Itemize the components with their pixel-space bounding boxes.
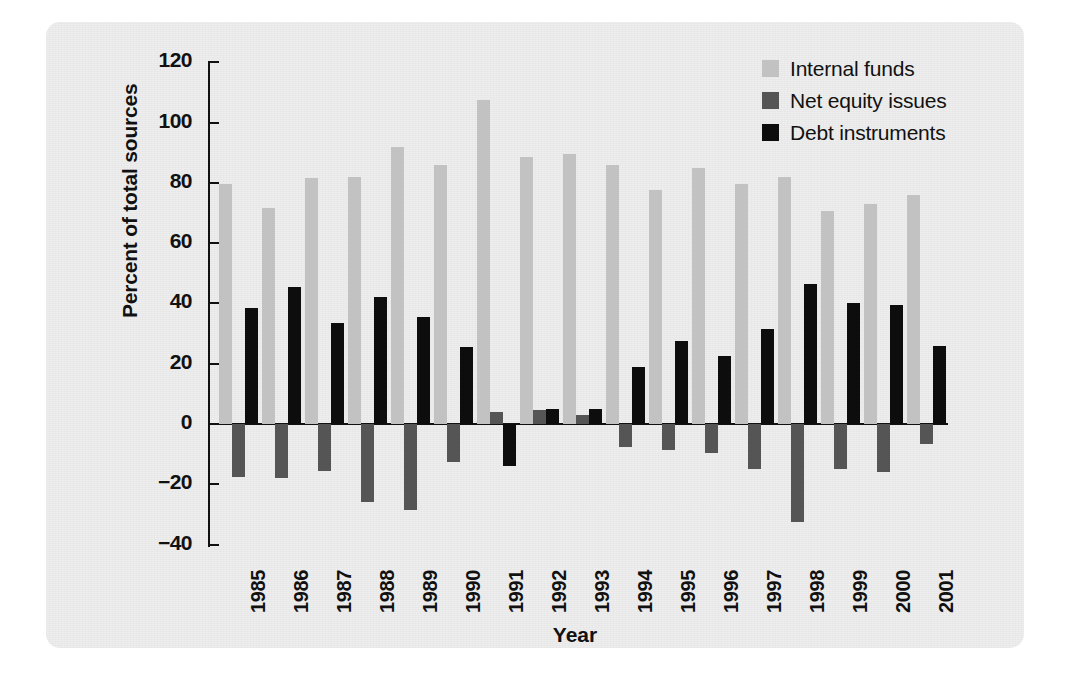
bar-debt-instruments-1995 [675, 341, 688, 424]
bar-debt-instruments-1999 [847, 303, 860, 424]
y-axis-tick [208, 242, 219, 244]
x-axis-tick-label: 1988 [376, 570, 399, 613]
bar-debt-instruments-1994 [632, 367, 645, 424]
legend-item-label: Internal funds [790, 57, 914, 81]
bar-internal-funds-1993 [563, 154, 576, 424]
x-axis-tick-label: 1995 [677, 570, 700, 613]
bar-internal-funds-1994 [606, 165, 619, 424]
bar-internal-funds-1999 [821, 211, 834, 424]
y-axis-tick [208, 182, 219, 184]
y-axis-tick [208, 122, 219, 124]
x-axis-tick-label: 1991 [505, 570, 528, 613]
y-axis-tick-label: 60 [118, 229, 192, 253]
bar-internal-funds-2000 [864, 204, 877, 424]
bar-debt-instruments-1993 [589, 409, 602, 424]
bar-debt-instruments-1989 [417, 317, 430, 424]
bar-debt-instruments-1992 [546, 409, 559, 424]
legend-item: Net equity issues [762, 88, 947, 113]
y-axis-tick-label: 40 [118, 289, 192, 313]
x-axis-tick-label: 1996 [720, 570, 743, 613]
y-axis-tick [208, 61, 219, 63]
bar-net-equity-issues-1994 [619, 424, 632, 447]
bar-debt-instruments-2000 [890, 305, 903, 424]
bar-internal-funds-1986 [262, 208, 275, 424]
chart-figure: Percent of total sources 120100806040200… [0, 0, 1070, 680]
bar-debt-instruments-1997 [761, 329, 774, 424]
x-axis-tick-label: 2001 [935, 570, 958, 613]
legend-item: Debt instruments [762, 120, 947, 145]
bar-debt-instruments-1990 [460, 347, 473, 424]
bar-internal-funds-1995 [649, 190, 662, 424]
x-axis-tick-label: 1992 [548, 570, 571, 613]
bar-internal-funds-1996 [692, 168, 705, 424]
x-axis-tick-label: 2000 [892, 570, 915, 613]
y-axis-tick-label: −40 [118, 531, 192, 555]
bar-net-equity-issues-1990 [447, 424, 460, 462]
bar-net-equity-issues-1991 [490, 412, 503, 424]
y-axis-tick-label: 80 [118, 169, 192, 193]
y-axis-tick [208, 423, 219, 425]
bar-net-equity-issues-1985 [232, 424, 245, 477]
legend-item: Internal funds [762, 56, 947, 81]
bar-net-equity-issues-1998 [791, 424, 804, 522]
bar-net-equity-issues-1988 [361, 424, 374, 502]
x-axis-tick-label: 1993 [591, 570, 614, 613]
bar-debt-instruments-1991 [503, 424, 516, 466]
y-axis-tick-label: 120 [118, 48, 192, 72]
bar-internal-funds-1992 [520, 157, 533, 424]
bar-debt-instruments-1986 [288, 287, 301, 424]
x-axis-title: Year [0, 623, 1070, 647]
bar-debt-instruments-1987 [331, 323, 344, 424]
bar-net-equity-issues-2001 [920, 424, 933, 444]
y-axis-tick-label: 0 [118, 410, 192, 434]
x-axis-tick-label: 1997 [763, 570, 786, 613]
bar-internal-funds-1998 [778, 177, 791, 424]
x-axis-title-text: Year [553, 623, 597, 646]
y-axis-tick [208, 483, 219, 485]
x-axis-tick-label: 1994 [634, 570, 657, 613]
legend-item-label: Debt instruments [790, 121, 946, 145]
legend-swatch-icon [762, 60, 779, 77]
bar-internal-funds-1989 [391, 147, 404, 424]
x-axis-tick-label: 1989 [419, 570, 442, 613]
x-axis-tick-label: 1999 [849, 570, 872, 613]
bar-debt-instruments-1998 [804, 284, 817, 424]
bar-internal-funds-1997 [735, 184, 748, 424]
x-axis-tick-label: 1987 [333, 570, 356, 613]
bar-net-equity-issues-1989 [404, 424, 417, 510]
bar-net-equity-issues-1995 [662, 424, 675, 450]
legend-swatch-icon [762, 92, 779, 109]
bar-net-equity-issues-1999 [834, 424, 847, 469]
legend-swatch-icon [762, 124, 779, 141]
bar-internal-funds-1987 [305, 178, 318, 424]
bar-net-equity-issues-1993 [576, 415, 589, 424]
x-axis-tick-label: 1986 [290, 570, 313, 613]
y-axis-tick [208, 302, 219, 304]
bar-net-equity-issues-1986 [275, 424, 288, 478]
bar-internal-funds-1988 [348, 177, 361, 424]
x-axis-tick-label: 1985 [247, 570, 270, 613]
bar-net-equity-issues-1996 [705, 424, 718, 453]
y-axis-tick-label: 20 [118, 350, 192, 374]
bar-debt-instruments-1988 [374, 297, 387, 424]
legend-item-label: Net equity issues [790, 89, 947, 113]
chart-legend: Internal fundsNet equity issuesDebt inst… [762, 56, 947, 145]
bar-net-equity-issues-2000 [877, 424, 890, 472]
y-axis-tick [208, 544, 219, 546]
bar-debt-instruments-1985 [245, 308, 258, 424]
x-axis-tick-label: 1990 [462, 570, 485, 613]
y-axis-tick [208, 363, 219, 365]
y-axis-spine [208, 62, 210, 547]
bar-debt-instruments-1996 [718, 356, 731, 424]
bar-net-equity-issues-1992 [533, 410, 546, 424]
bar-internal-funds-1990 [434, 165, 447, 424]
x-axis-tick-label: 1998 [806, 570, 829, 613]
y-axis-tick-label: −20 [118, 470, 192, 494]
bar-net-equity-issues-1997 [748, 424, 761, 469]
bar-net-equity-issues-1987 [318, 424, 331, 471]
y-axis-tick-label: 100 [118, 109, 192, 133]
bar-internal-funds-1985 [219, 184, 232, 424]
bar-internal-funds-2001 [907, 195, 920, 424]
bar-internal-funds-1991 [477, 100, 490, 424]
bar-debt-instruments-2001 [933, 346, 946, 424]
